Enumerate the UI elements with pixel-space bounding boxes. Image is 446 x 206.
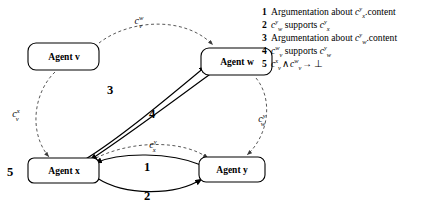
legend-number-4: 4 (262, 45, 271, 58)
legend-item-3: 3 Argumentation about cyw.content (262, 32, 446, 45)
edge-number-5: 5 (7, 165, 13, 179)
figure-root: Agent v Agent w Agent x Agent y cwv cxv (0, 0, 446, 206)
context-label-c-w-y: cyw (258, 112, 265, 127)
svg-text:cyx: cyx (149, 138, 156, 153)
node-agent-v[interactable]: Agent v (28, 43, 99, 70)
ctx-sup-c-w-y: y (262, 112, 266, 119)
legend-text-5: cxv∧cwv→⊥ (271, 58, 324, 71)
ctx-sub-c-x-y: x (152, 146, 156, 153)
legend-number-1: 1 (262, 6, 271, 19)
edge-number-4: 4 (149, 107, 156, 121)
node-label-agent-v: Agent v (48, 52, 80, 62)
svg-text:cxv: cxv (12, 107, 19, 122)
legend-text-4: cwv supports cyw (271, 45, 331, 58)
legend-item-2: 2 cyw supports cyx (262, 19, 446, 32)
node-agent-y[interactable]: Agent y (199, 157, 265, 182)
ctx-sub-c-v-x: v (16, 115, 19, 122)
legend-item-1: 1 Argumentation about cyx.content (262, 6, 446, 19)
legend-text-2: cyw supports cyx (271, 19, 330, 32)
dashed-edge-v-to-w (99, 24, 213, 45)
edge-number-1: 1 (144, 160, 150, 174)
ctx-sub-c-v-w: v (139, 22, 142, 29)
context-label-c-v-x: cxv (12, 107, 19, 122)
legend-number-5: 5 (262, 58, 271, 71)
ctx-sub-c-w-y: w (261, 120, 266, 127)
legend-text-3: Argumentation about cyw.content (271, 32, 397, 45)
legend-number-3: 3 (262, 32, 271, 45)
dashed-edge-v-to-x (36, 72, 55, 157)
legend-item-5: 5 cxv∧cwv→⊥ (262, 58, 446, 71)
legend-text-1: Argumentation about cyx.content (271, 6, 396, 19)
svg-text:cyw: cyw (258, 112, 265, 127)
node-agent-x[interactable]: Agent x (28, 158, 99, 183)
edge-number-2: 2 (144, 189, 150, 203)
solid-edge-x-to-w-3 (84, 66, 206, 160)
node-label-agent-y: Agent y (216, 165, 248, 175)
edge-number-3: 3 (107, 83, 113, 97)
ctx-sup-c-v-w: w (139, 14, 144, 21)
ctx-sup-c-x-y: y (153, 138, 157, 145)
legend-number-2: 2 (262, 19, 271, 32)
node-label-agent-w: Agent w (220, 57, 254, 67)
node-label-agent-x: Agent x (48, 166, 80, 176)
legend-item-4: 4 cwv supports cyw (262, 45, 446, 58)
context-label-c-x-y: cyx (149, 138, 156, 153)
legend: 1 Argumentation about cyx.content 2 cyw … (262, 6, 446, 71)
ctx-sup-c-v-x: x (16, 107, 20, 114)
